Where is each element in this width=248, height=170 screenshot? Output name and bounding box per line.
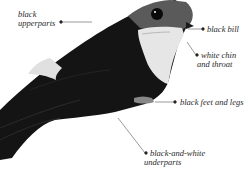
- label-black-upperparts: black upperparts: [18, 10, 55, 28]
- label-line: black feet and legs: [180, 98, 244, 107]
- bird-eye: [151, 8, 163, 20]
- label-black-feet-legs: black feet and legs: [180, 98, 244, 107]
- label-line: upperparts: [18, 19, 55, 28]
- label-black-bill: black bill: [207, 25, 239, 34]
- label-line: underparts: [144, 158, 205, 167]
- label-black-white-underparts: black-and-white underparts: [150, 149, 205, 167]
- label-line: black bill: [207, 25, 239, 34]
- label-line: and throat: [197, 60, 236, 69]
- label-white-chin-throat: white chin and throat: [201, 51, 236, 69]
- bird-diagram: black upperparts black bill white chin a…: [0, 0, 248, 170]
